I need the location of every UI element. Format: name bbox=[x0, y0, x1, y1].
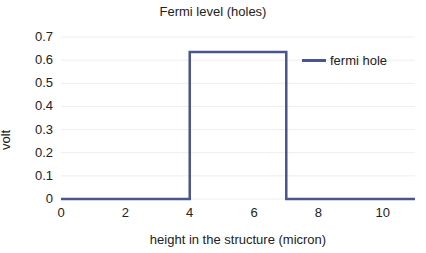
y-tick-label: 0.3 bbox=[13, 122, 53, 137]
legend-swatch bbox=[302, 59, 326, 62]
series-line bbox=[61, 52, 415, 199]
y-tick-label: 0.6 bbox=[13, 52, 53, 67]
x-tick-label: 8 bbox=[303, 205, 333, 220]
x-tick-label: 10 bbox=[368, 205, 398, 220]
x-tick-label: 6 bbox=[239, 205, 269, 220]
chart: Fermi level (holes) volt height in the s… bbox=[0, 0, 426, 253]
y-tick-label: 0 bbox=[13, 191, 53, 206]
x-tick-label: 2 bbox=[110, 205, 140, 220]
y-tick-label: 0.7 bbox=[13, 29, 53, 44]
x-tick-label: 4 bbox=[175, 205, 205, 220]
x-tick-label: 0 bbox=[46, 205, 76, 220]
y-tick-label: 0.2 bbox=[13, 145, 53, 160]
legend: fermi hole bbox=[302, 53, 387, 68]
y-tick-label: 0.4 bbox=[13, 98, 53, 113]
y-tick-label: 0.5 bbox=[13, 75, 53, 90]
legend-label: fermi hole bbox=[330, 53, 387, 68]
y-tick-label: 0.1 bbox=[13, 168, 53, 183]
